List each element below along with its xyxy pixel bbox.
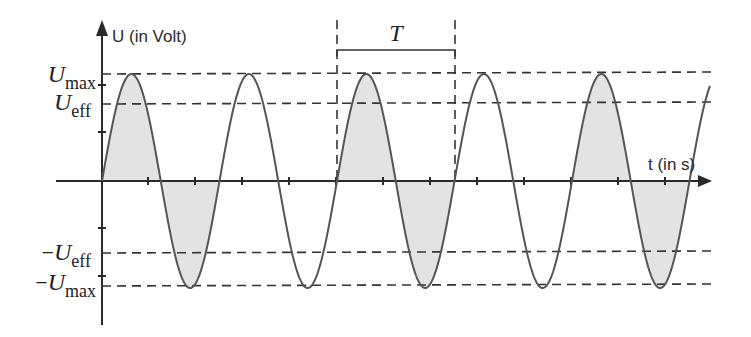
ueff-dashed-line [102, 102, 711, 104]
ac-voltage-diagram: T U (in Volt) t (in s) Umax Ueff −Ueff −… [0, 0, 751, 337]
neg-ueff-label: −Ueff [42, 239, 91, 271]
ueff-label: Ueff [54, 89, 91, 121]
neg-umax-label: −Umax [35, 269, 96, 301]
period-bracket [337, 50, 455, 56]
x-axis-label: t (in s) [648, 155, 695, 174]
x-axis-arrow-icon [698, 175, 712, 187]
diagram-canvas: T U (in Volt) t (in s) Umax Ueff −Ueff −… [0, 0, 751, 337]
y-axis-label: U (in Volt) [112, 27, 187, 46]
umax-dashed-line [102, 72, 711, 74]
y-axis-arrow-icon [96, 20, 108, 36]
period-label: T [389, 20, 404, 46]
